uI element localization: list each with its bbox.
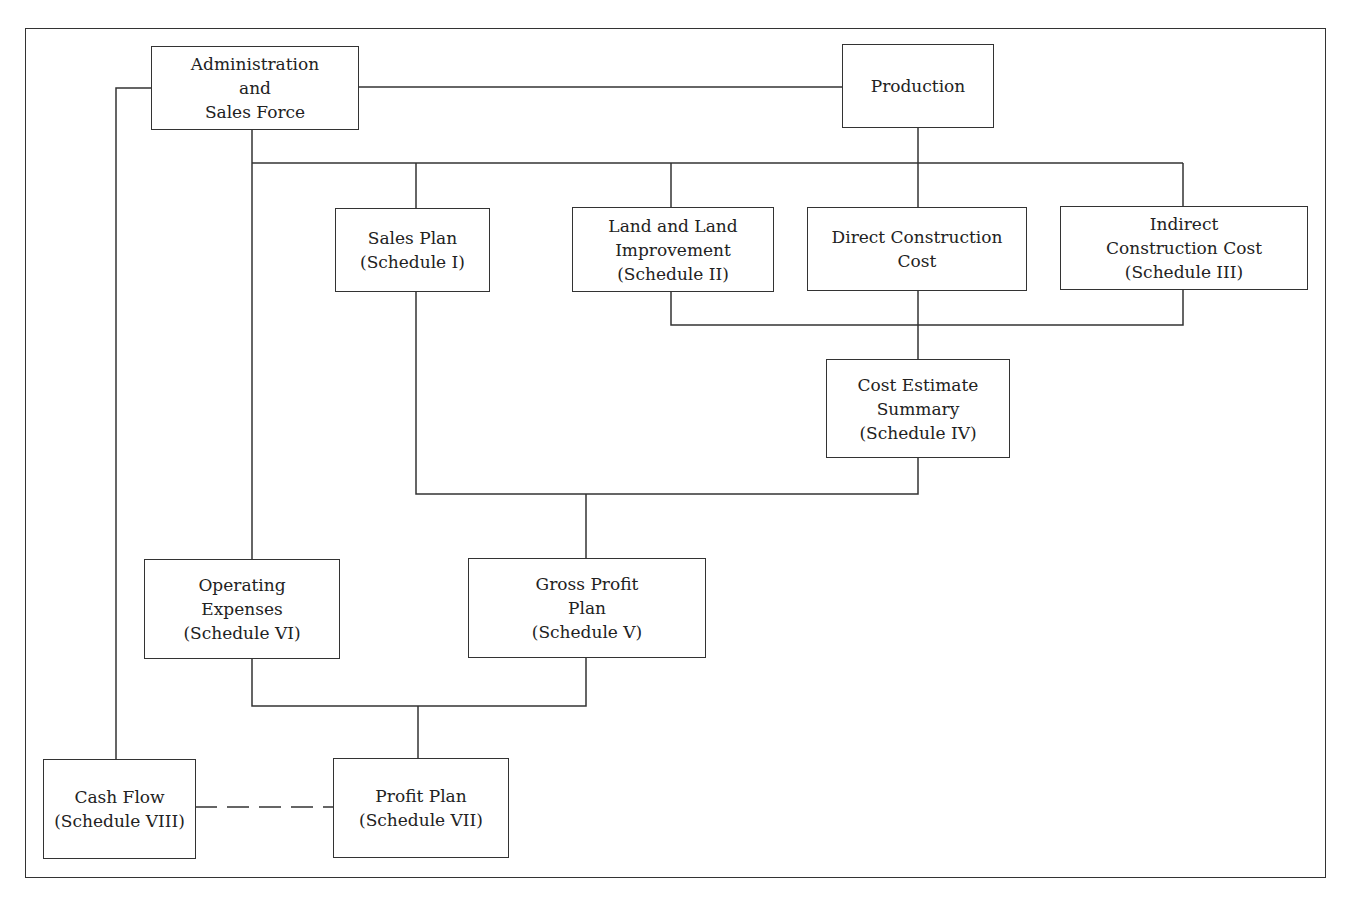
node-land-improvement: Land and Land Improvement (Schedule II): [572, 207, 774, 292]
node-label-line: Gross Profit: [536, 572, 639, 596]
node-label-line: (Schedule II): [617, 262, 729, 286]
node-label-line: Indirect: [1150, 212, 1219, 236]
connector-lines: [0, 0, 1345, 897]
node-label-line: Direct Construction: [832, 225, 1003, 249]
node-label-line: (Schedule VII): [359, 808, 483, 832]
node-gross-profit-plan: Gross Profit Plan (Schedule V): [468, 558, 706, 658]
node-profit-plan: Profit Plan (Schedule VII): [333, 758, 509, 858]
node-cost-estimate-summary: Cost Estimate Summary (Schedule IV): [826, 359, 1010, 458]
node-label-line: Sales Plan: [368, 226, 457, 250]
node-direct-construction-cost: Direct Construction Cost: [807, 207, 1027, 291]
node-label-line: Expenses: [201, 597, 282, 621]
node-operating-expenses: Operating Expenses (Schedule VI): [144, 559, 340, 659]
node-label-line: (Schedule VIII): [54, 809, 185, 833]
node-label-line: (Schedule I): [360, 250, 465, 274]
node-label-line: Operating: [198, 573, 285, 597]
node-label-line: Cost Estimate: [858, 373, 979, 397]
node-cash-flow: Cash Flow (Schedule VIII): [43, 759, 196, 859]
node-label-line: Land and Land: [608, 214, 737, 238]
node-label-line: (Schedule III): [1125, 260, 1243, 284]
node-label-line: and: [239, 76, 271, 100]
node-label-line: Profit Plan: [375, 784, 466, 808]
node-administration-sales-force: Administration and Sales Force: [151, 46, 359, 130]
node-label-line: Summary: [877, 397, 960, 421]
node-label-line: (Schedule VI): [183, 621, 300, 645]
node-label-line: Plan: [568, 596, 606, 620]
node-label-line: Administration: [191, 52, 319, 76]
node-label-line: (Schedule V): [532, 620, 642, 644]
node-label-line: Cost: [898, 249, 937, 273]
node-label-line: Cash Flow: [74, 785, 164, 809]
node-label-line: Sales Force: [205, 100, 305, 124]
node-label-line: Improvement: [615, 238, 731, 262]
node-label-line: (Schedule IV): [859, 421, 976, 445]
node-production: Production: [842, 44, 994, 128]
node-indirect-construction-cost: Indirect Construction Cost (Schedule III…: [1060, 206, 1308, 290]
node-label-line: Construction Cost: [1106, 236, 1262, 260]
node-sales-plan: Sales Plan (Schedule I): [335, 208, 490, 292]
budget-flowchart: Administration and Sales Force Productio…: [0, 0, 1345, 897]
node-label-line: Production: [871, 74, 966, 98]
